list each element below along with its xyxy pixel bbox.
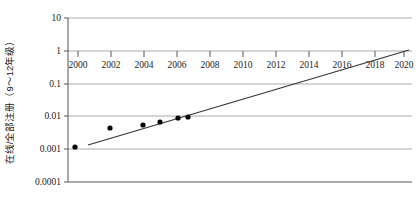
y-tick-label-0.1: 0.1 <box>49 79 61 89</box>
x-tick-label-2014: 2014 <box>300 60 319 70</box>
data-point <box>185 114 190 119</box>
chart-figure: 在线/全部注册（9～12年级） 10 1 0.1 0.01 0.001 <box>0 0 416 198</box>
chart-background <box>0 0 416 198</box>
x-tick-label-2008: 2008 <box>201 60 220 70</box>
y-axis-title: 在线/全部注册（9～12年级） <box>4 36 15 165</box>
x-tick-label-2020: 2020 <box>395 60 414 70</box>
data-point <box>72 144 77 149</box>
log-scatter-chart: 在线/全部注册（9～12年级） 10 1 0.1 0.01 0.001 <box>0 0 416 198</box>
data-point <box>175 115 180 120</box>
x-tick-label-2004: 2004 <box>135 60 154 70</box>
x-tick-label-2000: 2000 <box>69 60 88 70</box>
x-tick-label-2012: 2012 <box>267 60 286 70</box>
y-tick-label-0.0001: 0.0001 <box>35 177 61 187</box>
y-tick-label-10: 10 <box>52 13 62 23</box>
y-tick-label-0.01: 0.01 <box>44 111 61 121</box>
x-tick-label-2010: 2010 <box>234 60 253 70</box>
data-point <box>157 119 162 124</box>
y-tick-label-0.001: 0.001 <box>40 144 62 154</box>
data-point <box>107 125 112 130</box>
x-tick-label-2006: 2006 <box>168 60 187 70</box>
x-tick-label-2002: 2002 <box>102 60 121 70</box>
y-tick-label-1: 1 <box>56 46 61 56</box>
x-tick-label-2016: 2016 <box>333 60 352 70</box>
data-point <box>140 122 145 127</box>
